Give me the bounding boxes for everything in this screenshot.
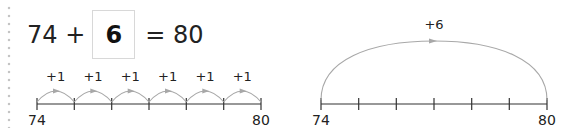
jump-label: +6: [424, 17, 443, 32]
jump-labels: +1 +1 +1 +1 +1 +1: [46, 69, 252, 84]
svg-text:+1: +1: [195, 69, 214, 84]
svg-text:+1: +1: [46, 69, 65, 84]
end-label: 80: [252, 112, 270, 128]
start-label: 74: [28, 112, 46, 128]
arrow-icon: [429, 39, 437, 44]
number-lines: +1 +1 +1 +1 +1 +1 74 80 +6 74 80: [0, 0, 581, 131]
number-line-small-steps: +1 +1 +1 +1 +1 +1 74 80: [28, 69, 270, 128]
number-line-big-jump: +6 74 80: [312, 17, 556, 128]
end-label: 80: [538, 112, 556, 128]
svg-text:+1: +1: [121, 69, 140, 84]
svg-text:+1: +1: [233, 69, 252, 84]
svg-text:+1: +1: [158, 69, 177, 84]
start-label: 74: [312, 112, 330, 128]
jump-arc: [321, 41, 547, 100]
svg-text:+1: +1: [83, 69, 102, 84]
arrow-icons: [53, 89, 247, 94]
